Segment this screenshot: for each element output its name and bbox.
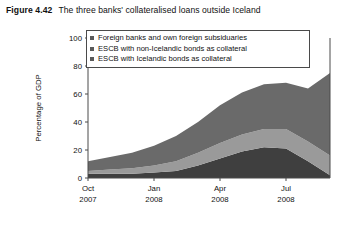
legend-swatch-icon [90, 47, 94, 51]
legend-item-label: ESCB with non-Icelandic bonds as collate… [98, 44, 247, 54]
x-axis-tick-label-month: Jul [281, 184, 291, 193]
y-axis-tick-label: 40 [73, 118, 82, 127]
y-axis-tick-label: 80 [73, 62, 82, 71]
legend-item-label: Foreign banks and own foreign subsiduari… [98, 33, 247, 43]
y-axis-tick-label: 0 [78, 174, 83, 183]
y-axis-title: Percentage of GDP [34, 74, 43, 142]
x-axis-tick-label-month: Apr [214, 184, 227, 193]
x-axis-tick-label-year: 2007 [79, 195, 96, 204]
x-axis-tick-label-year: 2008 [277, 195, 294, 204]
x-axis-tick-label-year: 2008 [145, 195, 162, 204]
x-axis-tick-label-month: Jan [148, 184, 161, 193]
legend-item-foreign-banks[interactable]: Foreign banks and own foreign subsiduari… [90, 33, 305, 44]
x-axis: Oct2007Jan2008Apr2008Jul2008 [79, 178, 294, 204]
y-axis-tick-label: 60 [73, 90, 82, 99]
chart-legend: Foreign banks and own foreign subsiduari… [86, 30, 310, 68]
x-axis-tick-label-year: 2008 [211, 195, 228, 204]
figure-container: Figure 4.42 The three banks' collaterali… [0, 0, 343, 226]
legend-swatch-icon [90, 57, 94, 61]
figure-number: Figure 4.42 [6, 5, 52, 15]
legend-item-escb-icelandic[interactable]: ESCB with Icelandic bonds as collateral [90, 54, 305, 65]
page-title: The three banks' collateralised loans ou… [58, 5, 260, 15]
legend-item-escb-non-icelandic[interactable]: ESCB with non-Icelandic bonds as collate… [90, 44, 305, 55]
legend-item-label: ESCB with Icelandic bonds as collateral [98, 54, 232, 64]
legend-swatch-icon [90, 36, 94, 40]
y-axis-tick-label: 100 [69, 34, 83, 43]
figure-caption: Figure 4.42 The three banks' collaterali… [6, 5, 342, 21]
y-axis-tick-label: 20 [73, 146, 82, 155]
x-axis-tick-label-month: Oct [82, 184, 95, 193]
